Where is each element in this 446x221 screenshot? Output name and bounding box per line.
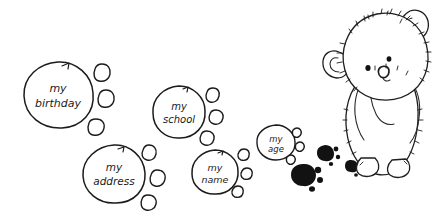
paw-label-name-line1: my <box>208 162 223 173</box>
paw-toe-filled-large-3 <box>309 186 315 192</box>
paw-toe-school-3 <box>200 131 214 145</box>
paw-toe-name-2 <box>241 168 252 179</box>
paw-toe-school-2 <box>209 110 223 124</box>
paw-pad-filled-mid <box>317 145 334 161</box>
illustration-canvas: my birthday my address my school <box>0 0 446 221</box>
paw-toe-age-2 <box>295 142 304 151</box>
paw-toe-filled-mid-3 <box>329 162 333 166</box>
paw-toe-birthday-1 <box>94 64 110 81</box>
paw-pad-filled-large <box>291 164 316 186</box>
paw-print-name[interactable]: my name <box>192 149 252 197</box>
paw-toe-age-1 <box>292 128 301 137</box>
paw-toe-filled-small-3 <box>354 173 358 177</box>
bear-left-foot <box>357 158 379 176</box>
paw-label-address-line2: address <box>93 175 135 187</box>
bear-right-eye <box>387 56 392 62</box>
paw-label-birthday-line1: my <box>49 82 67 95</box>
paw-label-birthday-line2: birthday <box>35 97 82 110</box>
paw-toe-address-3 <box>141 195 156 210</box>
paw-toe-filled-large-1 <box>315 167 321 173</box>
paw-toe-address-1 <box>142 145 156 160</box>
paw-toe-filled-mid-2 <box>336 155 340 159</box>
paw-pad-school[interactable] <box>153 86 205 138</box>
paw-toe-filled-mid-1 <box>334 147 339 152</box>
paw-label-age-line2: age <box>268 144 284 154</box>
paw-label-age-line1: my <box>269 134 283 144</box>
paw-label-school-line1: my <box>171 101 188 112</box>
paw-toe-address-2 <box>150 170 165 186</box>
paw-toe-name-3 <box>232 186 243 197</box>
bear-left-eye <box>365 65 370 71</box>
paw-pad-address[interactable] <box>83 145 145 203</box>
paw-toe-school-1 <box>206 88 219 102</box>
drawing-surface: my birthday my address my school <box>0 0 446 221</box>
paw-toe-filled-large-2 <box>317 177 323 183</box>
bear-right-foot <box>388 159 410 177</box>
paw-toe-birthday-3 <box>88 119 104 135</box>
paw-pad-birthday[interactable] <box>24 62 93 128</box>
paw-toe-age-3 <box>286 155 295 164</box>
paw-label-school-line2: school <box>163 114 195 125</box>
paw-label-name-line2: name <box>202 174 229 185</box>
paw-toe-name-1 <box>238 149 249 160</box>
paw-toe-birthday-2 <box>98 90 114 107</box>
paw-label-address-line1: my <box>106 161 123 173</box>
bear-head <box>343 13 428 100</box>
